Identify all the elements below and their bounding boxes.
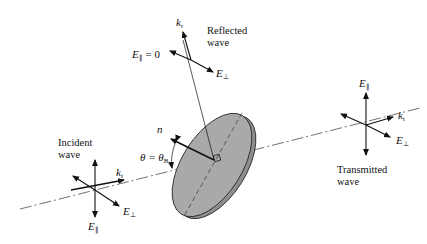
e-perp-symbol: E xyxy=(216,67,223,79)
e-perp-transmitted-symbol: E xyxy=(396,134,403,146)
k-transmitted-subscript: t xyxy=(403,115,405,123)
brewster-angle-label: θ = θB xyxy=(140,152,168,165)
e-parallel-transmitted-symbol: E xyxy=(359,77,366,89)
dielectric-disk xyxy=(156,100,272,232)
e-parallel-incident-symbol: E xyxy=(88,220,95,232)
e-perp-transmitted-subscript: ⊥ xyxy=(403,140,409,148)
k-reflected-subscript: r xyxy=(181,22,183,30)
e-perp-incident-label: E⊥ xyxy=(123,206,136,219)
transmitted-wave-label: Transmitted wave xyxy=(337,165,387,187)
normal-label: n xyxy=(157,124,163,135)
brewster-angle-arc xyxy=(172,141,177,168)
reflected-wave-label-line1: Reflected xyxy=(207,26,247,37)
e-perp-transmitted-label: E⊥ xyxy=(396,135,409,148)
e-perp-incident-subscript: ⊥ xyxy=(130,211,136,219)
incident-wave-label: Incident wave xyxy=(58,138,92,160)
k-transmitted-label: kt xyxy=(398,110,405,123)
transmitted-wave-vectors xyxy=(341,93,393,155)
e-parallel-symbol: E xyxy=(132,48,139,60)
e-parallel-reflected-label: E∥ = 0 xyxy=(132,49,160,62)
theta-symbol: θ = θ xyxy=(140,151,164,163)
transmitted-wave-label-line1: Transmitted xyxy=(337,165,387,176)
e-parallel-incident-subscript: ∥ xyxy=(95,226,99,234)
reflected-wave-label: Reflected wave xyxy=(207,26,247,48)
e-parallel-transmitted-label: E∥ xyxy=(359,78,370,91)
reflected-wave-label-line2: wave xyxy=(207,38,247,49)
e-parallel-incident-label: E∥ xyxy=(88,221,99,234)
e-perp-subscript: ⊥ xyxy=(223,73,229,81)
theta-subscript: B xyxy=(164,157,169,165)
k-incident-subscript: i xyxy=(121,172,123,180)
transmitted-wave-label-line2: wave xyxy=(337,177,387,188)
normal-symbol: n xyxy=(157,123,163,135)
e-parallel-equals-zero: = 0 xyxy=(145,48,159,60)
e-parallel-subscript: ∥ xyxy=(139,54,143,62)
e-parallel-transmitted-subscript: ∥ xyxy=(366,83,370,91)
e-perp-reflected-label: E⊥ xyxy=(216,68,229,81)
incident-wave-label-line1: Incident xyxy=(58,138,92,149)
incident-wave-label-line2: wave xyxy=(58,150,92,161)
k-reflected-label: kr xyxy=(176,17,183,30)
k-incident-label: ki xyxy=(116,167,123,180)
e-perp-incident-symbol: E xyxy=(123,205,130,217)
